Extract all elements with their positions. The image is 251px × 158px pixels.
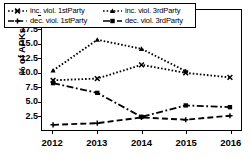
- legend: inc. viol. 1stParty inc. viol. 3rdParty …: [4, 3, 196, 28]
- y-tick-label: 7.5: [12, 83, 38, 92]
- series-line-3: [53, 83, 230, 117]
- y-tick-label: 2.5: [12, 112, 38, 121]
- legend-swatch-dashdot-square-icon: [102, 16, 123, 26]
- x-tick-mark: [142, 131, 143, 134]
- data-point-marker: [139, 115, 143, 119]
- legend-entry-dec-viol-3rdparty[interactable]: dec. viol. 3rdParty: [102, 16, 193, 26]
- data-point-marker: [227, 113, 232, 118]
- y-tick-mark: [38, 44, 41, 45]
- x-axis-tick-labels: 20122013201420152016: [0, 137, 251, 151]
- legend-swatch-dashed-plus-icon: [7, 16, 28, 26]
- x-tick-label: 2012: [32, 137, 72, 148]
- data-point-marker: [51, 81, 55, 85]
- legend-row: dec. viol. 1stParty dec. viol. 3rdParty: [7, 16, 193, 26]
- y-tick-label: 15.0: [12, 39, 38, 48]
- y-tick-mark: [38, 102, 41, 103]
- x-tick-mark: [186, 131, 187, 134]
- legend-label: dec. viol. 1stParty: [30, 16, 87, 25]
- legend-label: inc. viol. 1stParty: [30, 6, 85, 15]
- y-tick-mark: [38, 15, 41, 16]
- data-point-marker: [110, 18, 114, 22]
- x-tick-mark: [97, 131, 98, 134]
- x-tick-label: 2015: [166, 137, 206, 148]
- y-tick-label: 10.0: [12, 68, 38, 77]
- y-tick-mark: [38, 73, 41, 74]
- y-tick-mark: [38, 58, 41, 59]
- chart-container: % of APKs 2.55.07.510.012.515.017.520.0 …: [0, 0, 251, 158]
- data-point-marker: [95, 76, 100, 81]
- legend-label: inc. viol. 3rdParty: [125, 6, 180, 15]
- x-tick-label: 2014: [122, 137, 162, 148]
- x-tick-mark: [52, 131, 53, 134]
- legend-entry-inc-viol-1stparty[interactable]: inc. viol. 1stParty: [7, 6, 102, 16]
- series-line-0: [53, 65, 230, 80]
- legend-entry-inc-viol-3rdparty[interactable]: inc. viol. 3rdParty: [102, 6, 193, 16]
- y-tick-mark: [38, 116, 41, 117]
- series-canvas: [42, 10, 241, 130]
- data-point-marker: [183, 117, 188, 122]
- series-line-1: [53, 40, 186, 71]
- y-tick-mark: [38, 29, 41, 30]
- data-point-marker: [50, 122, 55, 127]
- legend-label: dec. viol. 3rdParty: [125, 16, 183, 25]
- data-point-marker: [139, 62, 144, 67]
- data-point-marker: [184, 103, 188, 107]
- data-point-marker: [50, 68, 55, 73]
- legend-swatch-dotted-triangle-icon: [102, 6, 123, 16]
- legend-entry-dec-viol-1stparty[interactable]: dec. viol. 1stParty: [7, 16, 102, 26]
- data-point-marker: [95, 37, 100, 42]
- data-point-marker: [228, 105, 232, 109]
- data-point-marker: [95, 121, 100, 126]
- y-tick-label: 5.0: [12, 97, 38, 106]
- x-tick-label: 2013: [77, 137, 117, 148]
- y-tick-mark: [38, 87, 41, 88]
- x-tick-mark: [231, 131, 232, 134]
- legend-swatch-dotted-x-icon: [7, 6, 28, 16]
- data-point-marker: [15, 18, 20, 23]
- legend-row: inc. viol. 1stParty inc. viol. 3rdParty: [7, 6, 193, 16]
- x-tick-label: 2016: [211, 137, 251, 148]
- y-tick-label: 12.5: [12, 54, 38, 63]
- data-point-marker: [95, 91, 99, 95]
